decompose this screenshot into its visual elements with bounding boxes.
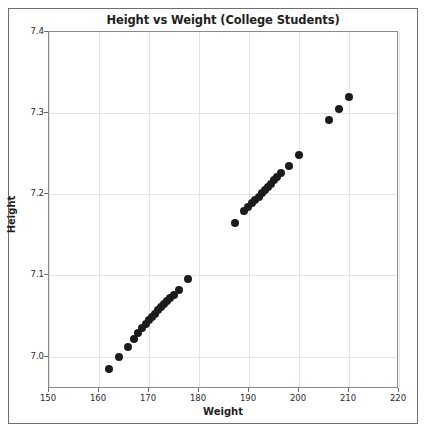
x-axis-tick-label: 220 xyxy=(390,393,406,403)
x-axis-tick xyxy=(198,388,199,392)
x-axis-label: Weight xyxy=(48,406,398,417)
gridline-vertical xyxy=(299,32,300,387)
gridline-horizontal xyxy=(49,194,397,195)
y-axis-tick-label: 7.1 xyxy=(30,269,44,279)
x-axis-tick xyxy=(298,388,299,392)
data-point xyxy=(335,105,343,113)
gridline-horizontal xyxy=(49,357,397,358)
plot-area xyxy=(48,31,398,388)
y-axis-tick-label: 7.2 xyxy=(30,188,44,198)
x-axis-tick xyxy=(48,388,49,392)
data-point xyxy=(175,286,183,294)
gridline-vertical xyxy=(49,32,50,387)
data-point xyxy=(285,162,293,170)
y-axis-tick xyxy=(44,31,48,32)
gridline-vertical xyxy=(399,32,400,387)
data-point xyxy=(115,353,123,361)
y-axis-tick xyxy=(44,356,48,357)
scatter-chart: Height vs Weight (College Students) 1501… xyxy=(0,0,427,437)
gridline-horizontal xyxy=(49,113,397,114)
x-axis-tick xyxy=(148,388,149,392)
gridline-horizontal xyxy=(49,275,397,276)
y-axis-tick-label: 7.0 xyxy=(30,351,44,361)
data-point xyxy=(277,169,285,177)
chart-title: Height vs Weight (College Students) xyxy=(48,13,398,27)
y-axis-label: Height xyxy=(6,196,17,234)
data-point xyxy=(325,116,333,124)
y-axis-tick-label: 7.4 xyxy=(30,26,44,36)
y-axis-tick xyxy=(44,274,48,275)
y-axis-tick xyxy=(44,112,48,113)
x-axis-tick-label: 190 xyxy=(240,393,256,403)
x-axis-tick-label: 160 xyxy=(90,393,106,403)
data-point xyxy=(105,365,113,373)
y-axis-tick-label: 7.3 xyxy=(30,107,44,117)
x-axis-tick-label: 150 xyxy=(40,393,56,403)
gridline-vertical xyxy=(149,32,150,387)
data-point xyxy=(231,219,239,227)
x-axis-tick xyxy=(248,388,249,392)
gridline-vertical xyxy=(349,32,350,387)
data-point xyxy=(124,343,132,351)
data-point xyxy=(184,275,192,283)
x-axis-tick-label: 180 xyxy=(190,393,206,403)
x-axis-tick xyxy=(348,388,349,392)
x-axis-tick-label: 210 xyxy=(340,393,356,403)
data-point xyxy=(345,93,353,101)
x-axis-tick xyxy=(98,388,99,392)
x-axis-tick-label: 200 xyxy=(290,393,306,403)
figure-root: Height vs Weight (College Students) 1501… xyxy=(0,0,427,437)
data-point xyxy=(295,151,303,159)
gridline-vertical xyxy=(199,32,200,387)
x-axis-tick-label: 170 xyxy=(140,393,156,403)
gridline-vertical xyxy=(99,32,100,387)
y-axis-tick xyxy=(44,193,48,194)
x-axis-tick xyxy=(398,388,399,392)
